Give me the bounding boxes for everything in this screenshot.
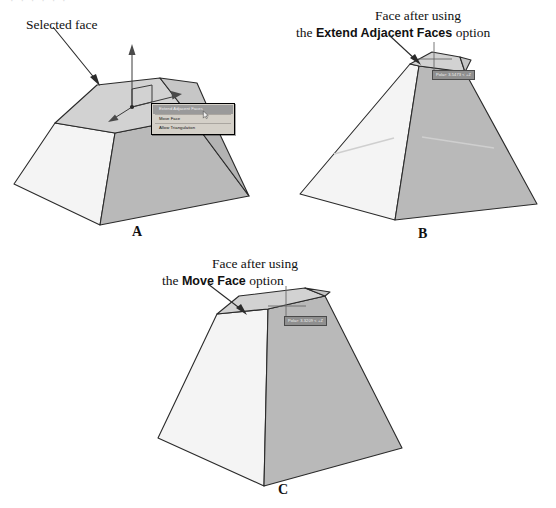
figure-label-c: C: [278, 482, 288, 498]
polar-readout-b: Polar: 3.5473 < +Z: [432, 70, 475, 80]
gizmo-z-arrowhead: [129, 44, 136, 55]
menu-item-move-face[interactable]: Move Face: [153, 115, 233, 124]
figure-label-b: B: [418, 226, 427, 242]
pyramid-left-face: [14, 123, 115, 225]
callout-arrow-b: [389, 35, 421, 65]
pyramid-left-face: [158, 309, 268, 486]
figure-b: Face after using the Extend Adjacent Fac…: [282, 4, 556, 252]
face-edit-context-menu[interactable]: Extend Adjacent Faces Move Face Allow Tr…: [151, 103, 235, 135]
polar-readout-c: Polar: 3.3209 < +Z: [284, 316, 327, 326]
figure-a-drawing: [0, 20, 280, 250]
figure-label-a: A: [132, 224, 142, 240]
menu-item-allow-triangulation[interactable]: Allow Triangulation: [153, 124, 233, 133]
callout-label-a: Selected face: [26, 17, 98, 33]
menu-item-extend-adjacent-faces[interactable]: Extend Adjacent Faces: [153, 105, 233, 114]
figure-c: Face after using the Move Face option: [140, 252, 420, 508]
figure-page: · · · · · ·: [0, 0, 556, 508]
mouse-cursor-icon: [203, 111, 209, 119]
scan-bleed-text: · · · · · ·: [10, 0, 310, 6]
figure-a: Selected face Extend Adjacent Faces Move…: [0, 20, 280, 250]
gizmo-origin-point: [130, 105, 134, 109]
figure-b-drawing: [282, 4, 556, 252]
pyramid-right-face: [395, 66, 537, 220]
figure-c-drawing: [140, 252, 420, 508]
callout-arrow-a: [53, 27, 100, 86]
